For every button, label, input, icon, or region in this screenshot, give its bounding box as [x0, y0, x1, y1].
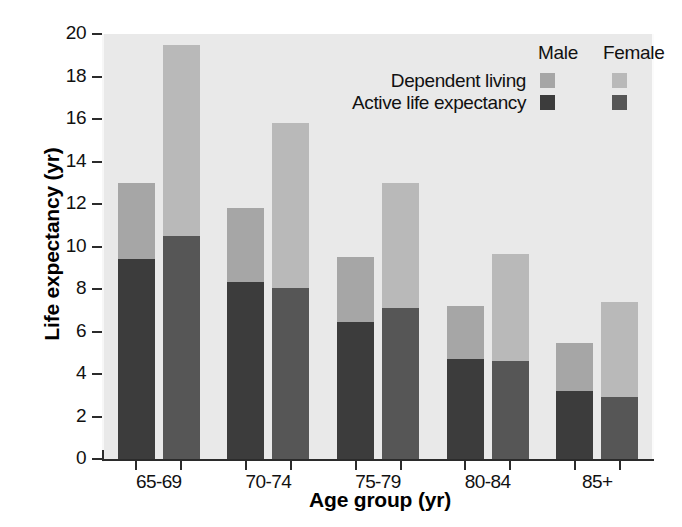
y-tick-label: 20: [42, 22, 86, 44]
bar-segment-active-life-expectancy: [163, 236, 200, 459]
bar-segment-dependent-living: [601, 302, 638, 398]
y-tick-mark: [92, 331, 102, 333]
y-tick-mark: [92, 118, 102, 120]
legend-label-active-life-expectancy: Active life expectancy: [294, 92, 526, 114]
bar-female-85+: [601, 302, 638, 459]
x-tick-mark: [180, 459, 182, 470]
bar-segment-dependent-living: [556, 343, 593, 391]
bar-segment-dependent-living: [227, 208, 264, 281]
x-tick-mark: [245, 459, 247, 470]
bar-segment-active-life-expectancy: [227, 282, 264, 459]
bar-segment-dependent-living: [118, 183, 155, 260]
legend-header-male: Male: [538, 42, 578, 64]
y-tick-label: 2: [42, 405, 86, 427]
y-tick-label: 14: [42, 150, 86, 172]
y-tick-label: 0: [42, 447, 86, 469]
y-tick-mark: [92, 416, 102, 418]
bar-segment-active-life-expectancy: [272, 288, 309, 459]
y-tick-mark: [92, 246, 102, 248]
bar-segment-active-life-expectancy: [337, 322, 374, 459]
y-tick-label: 6: [42, 320, 86, 342]
bar-segment-active-life-expectancy: [382, 308, 419, 459]
y-tick-mark: [92, 76, 102, 78]
legend-swatch-male-dependent: [540, 73, 555, 88]
bar-segment-dependent-living: [382, 183, 419, 308]
bar-segment-active-life-expectancy: [447, 359, 484, 459]
y-tick-mark: [92, 458, 102, 460]
x-tick-mark: [135, 459, 137, 470]
bar-female-75-79: [382, 183, 419, 459]
y-tick-mark: [92, 288, 102, 290]
legend-swatch-male-active: [540, 95, 555, 110]
x-tick-mark: [400, 459, 402, 470]
y-tick-label: 12: [42, 192, 86, 214]
y-tick-label: 18: [42, 65, 86, 87]
legend-swatch-female-active: [612, 95, 627, 110]
chart-figure: Life expectancy (yr) 02468101214161820 6…: [0, 0, 682, 527]
x-tick-mark: [464, 459, 466, 470]
y-tick-mark: [92, 373, 102, 375]
legend-header-female: Female: [603, 42, 665, 64]
y-tick-label: 4: [42, 362, 86, 384]
bar-segment-dependent-living: [447, 306, 484, 359]
y-tick-label: 10: [42, 235, 86, 257]
bar-segment-active-life-expectancy: [556, 391, 593, 459]
bar-female-70-74: [272, 123, 309, 459]
chart-legend: Male Female Dependent living Active life…: [290, 42, 650, 114]
y-tick-label: 16: [42, 107, 86, 129]
y-tick-mark: [92, 33, 102, 35]
bar-segment-dependent-living: [492, 254, 529, 361]
bar-male-70-74: [227, 208, 264, 459]
x-tick-mark: [509, 459, 511, 470]
bar-female-65-69: [163, 45, 200, 459]
y-tick-mark: [92, 203, 102, 205]
bar-segment-active-life-expectancy: [492, 361, 529, 459]
bar-segment-active-life-expectancy: [601, 397, 638, 459]
bar-segment-dependent-living: [272, 123, 309, 288]
x-tick-mark: [619, 459, 621, 470]
bar-male-80-84: [447, 306, 484, 459]
bar-male-65-69: [118, 183, 155, 459]
bar-segment-dependent-living: [163, 45, 200, 236]
legend-label-dependent-living: Dependent living: [294, 70, 526, 92]
bar-segment-dependent-living: [337, 257, 374, 322]
bar-segment-active-life-expectancy: [118, 259, 155, 459]
x-tick-mark: [290, 459, 292, 470]
x-axis-line: [102, 459, 654, 461]
y-tick-mark: [92, 161, 102, 163]
bar-male-75-79: [337, 257, 374, 459]
y-axis-line: [102, 34, 104, 462]
bar-female-80-84: [492, 254, 529, 459]
y-tick-label: 8: [42, 277, 86, 299]
legend-swatch-female-dependent: [612, 73, 627, 88]
x-tick-mark: [574, 459, 576, 470]
bar-male-85+: [556, 343, 593, 459]
x-axis-title: Age group (yr): [100, 488, 660, 512]
x-tick-mark: [355, 459, 357, 470]
